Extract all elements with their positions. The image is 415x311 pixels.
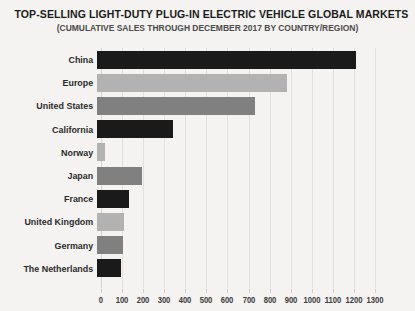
x-tick-label-0: 0: [99, 295, 103, 305]
bar-row: California: [0, 118, 415, 141]
category-label-china: China: [5, 54, 97, 65]
bar-rows: ChinaEuropeUnited StatesCaliforniaNorway…: [0, 48, 415, 280]
category-label-japan: Japan: [5, 170, 97, 181]
x-tick-1000: [312, 289, 313, 293]
category-label-united-kingdom: United Kingdom: [5, 216, 97, 227]
x-tick-600: [227, 289, 228, 293]
x-tick-label-400: 400: [179, 295, 192, 305]
chart-header: TOP-SELLING LIGHT-DUTY PLUG-IN ELECTRIC …: [0, 0, 415, 33]
chart-subtitle: (CUMULATIVE SALES THROUGH DECEMBER 2017 …: [15, 23, 401, 33]
x-tick-label-1300: 1300: [367, 295, 384, 305]
bar-united-states: [97, 97, 255, 115]
x-tick-label-300: 300: [158, 295, 171, 305]
category-label-france: France: [5, 193, 97, 204]
x-tick-label-900: 900: [284, 295, 297, 305]
bar-cell: [97, 257, 415, 280]
bar-cell: [97, 48, 415, 71]
x-tick-900: [291, 289, 292, 293]
x-axis: 0100200300400500600700800900100011001200…: [0, 289, 415, 311]
category-label-europe: Europe: [5, 77, 97, 88]
x-tick-1200: [354, 289, 355, 293]
x-tick-800: [270, 289, 271, 293]
bar-row: United States: [0, 94, 415, 117]
bar-row: The Netherlands: [0, 257, 415, 280]
bar-europe: [97, 74, 287, 92]
bar-cell: [97, 94, 415, 117]
bar-norway: [97, 143, 105, 161]
bar-china: [97, 51, 356, 69]
bar-cell: [97, 234, 415, 257]
bar-cell: [97, 71, 415, 94]
bar-the-netherlands: [97, 259, 121, 277]
x-tick-300: [164, 289, 165, 293]
bar-germany: [97, 236, 123, 254]
bar-row: Norway: [0, 141, 415, 164]
category-label-norway: Norway: [5, 147, 97, 158]
category-label-germany: Germany: [5, 240, 97, 251]
bar-cell: [97, 118, 415, 141]
bar-california: [97, 120, 173, 138]
x-tick-label-500: 500: [200, 295, 213, 305]
x-tick-1100: [333, 289, 334, 293]
category-label-the-netherlands: The Netherlands: [5, 263, 97, 274]
plot-area: ChinaEuropeUnited StatesCaliforniaNorway…: [0, 48, 415, 311]
bar-row: France: [0, 187, 415, 210]
x-tick-label-800: 800: [263, 295, 276, 305]
bar-united-kingdom: [97, 213, 124, 231]
bar-cell: [97, 187, 415, 210]
x-tick-100: [122, 289, 123, 293]
x-tick-200: [143, 289, 144, 293]
bar-france: [97, 190, 129, 208]
category-label-united-states: United States: [5, 100, 97, 111]
x-tick-400: [185, 289, 186, 293]
bar-row: Japan: [0, 164, 415, 187]
x-tick-label-1200: 1200: [345, 295, 362, 305]
x-tick-label-600: 600: [221, 295, 234, 305]
bar-row: Europe: [0, 71, 415, 94]
chart-title: TOP-SELLING LIGHT-DUTY PLUG-IN ELECTRIC …: [15, 8, 401, 20]
bar-cell: [97, 210, 415, 233]
chart-container: TOP-SELLING LIGHT-DUTY PLUG-IN ELECTRIC …: [0, 0, 415, 311]
x-tick-label-100: 100: [116, 295, 129, 305]
x-tick-label-200: 200: [137, 295, 150, 305]
x-tick-label-700: 700: [242, 295, 255, 305]
bar-row: United Kingdom: [0, 210, 415, 233]
bar-row: China: [0, 48, 415, 71]
x-tick-label-1100: 1100: [325, 295, 342, 305]
x-tick-500: [206, 289, 207, 293]
bar-cell: [97, 164, 415, 187]
x-tick-700: [249, 289, 250, 293]
bar-cell: [97, 141, 415, 164]
x-tick-0: [101, 289, 102, 293]
bar-japan: [97, 167, 142, 185]
category-label-california: California: [5, 124, 97, 135]
x-tick-1300: [375, 289, 376, 293]
bar-row: Germany: [0, 234, 415, 257]
x-tick-label-1000: 1000: [303, 295, 320, 305]
